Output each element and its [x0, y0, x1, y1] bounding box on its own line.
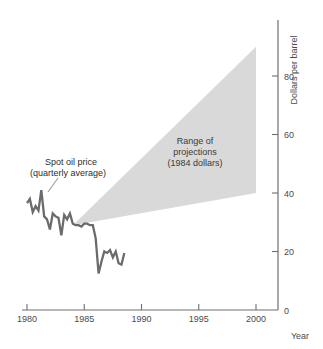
y-axis-ticks: 020406080	[272, 72, 294, 316]
x-tick-label: 1995	[189, 314, 209, 324]
range-of-projections-band	[73, 47, 256, 225]
band-label-line3: (1984 dollars)	[167, 158, 222, 168]
x-tick-label: 1985	[74, 314, 94, 324]
annotation-leader-line	[48, 178, 58, 192]
y-tick-label: 0	[284, 306, 289, 316]
y-axis-title: Dollars per barrel	[289, 35, 299, 104]
y-tick-label: 20	[284, 247, 294, 257]
x-axis-ticks: 19801985199019952000	[17, 304, 266, 324]
series-label-line2: (quarterly average)	[30, 168, 106, 178]
y-tick-label: 40	[284, 189, 294, 199]
band-label-line2: projections	[173, 147, 217, 157]
x-tick-label: 1990	[131, 314, 151, 324]
x-tick-label: 1980	[17, 314, 37, 324]
x-axis-title: Year	[291, 331, 309, 341]
oil-price-projection-chart: Range of projections (1984 dollars) Spot…	[0, 0, 323, 349]
band-label-line1: Range of	[177, 136, 214, 146]
series-label-line1: Spot oil price	[45, 157, 97, 167]
y-tick-label: 60	[284, 130, 294, 140]
x-tick-label: 2000	[246, 314, 266, 324]
chart-svg: Range of projections (1984 dollars) Spot…	[0, 0, 323, 349]
